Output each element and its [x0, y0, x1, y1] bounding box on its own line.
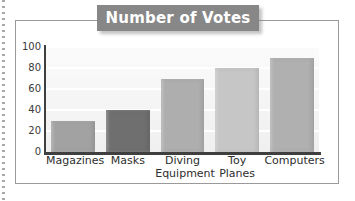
x-tick-label-line: Toy — [210, 155, 265, 168]
x-tick-label-line: Diving — [155, 155, 210, 168]
y-tick-label: 60 — [13, 83, 41, 94]
bar — [51, 121, 95, 153]
y-tick-label: 100 — [13, 41, 41, 52]
bar — [270, 58, 314, 153]
bar — [106, 110, 150, 152]
x-tick-label: Magazines — [46, 155, 101, 168]
scanned-page: Number of Votes 020406080100 MagazinesMa… — [0, 0, 355, 201]
x-tick-label-line: Computers — [264, 155, 319, 168]
page-title: Number of Votes — [106, 9, 251, 27]
y-axis-tick-labels: 020406080100 — [11, 0, 41, 201]
x-tick-label: Computers — [264, 155, 319, 168]
x-tick-label: DivingEquipment — [155, 155, 210, 180]
x-tick-label: ToyPlanes — [210, 155, 265, 180]
y-tick-label: 80 — [13, 62, 41, 73]
x-tick-label-line: Equipment — [155, 168, 210, 181]
x-tick-label-line: Magazines — [46, 155, 101, 168]
y-tick-label: 20 — [13, 125, 41, 136]
page-perforation-dots — [2, 0, 5, 201]
y-axis-line — [44, 45, 46, 153]
bar — [161, 79, 205, 153]
gridline — [46, 47, 319, 48]
x-tick-label-line: Planes — [210, 168, 265, 181]
plot-area — [46, 47, 319, 152]
x-tick-label: Masks — [101, 155, 156, 168]
y-tick-label: 40 — [13, 104, 41, 115]
y-tick-label: 0 — [13, 146, 41, 157]
x-axis-tick-labels: MagazinesMasksDivingEquipmentToyPlanesCo… — [46, 155, 321, 195]
x-tick-label-line: Masks — [101, 155, 156, 168]
chart-title-banner: Number of Votes — [97, 5, 259, 31]
bar — [215, 68, 259, 152]
